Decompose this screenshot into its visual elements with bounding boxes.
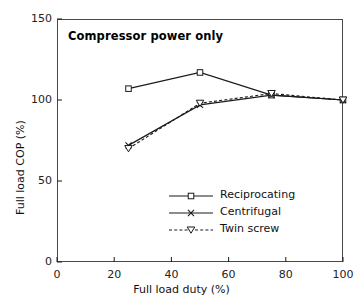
legend-label: Twin screw <box>220 222 279 235</box>
x-tick-label: 0 <box>37 268 77 281</box>
x-tick-label: 80 <box>266 268 306 281</box>
x-tick-label: 40 <box>151 268 191 281</box>
series-line <box>129 72 344 100</box>
data-point-marker <box>126 86 132 92</box>
legend-item: Centrifugal <box>168 203 318 220</box>
legend-label: Reciprocating <box>220 188 295 201</box>
legend-item: Twin screw <box>168 220 318 237</box>
x-tick-label: 60 <box>209 268 249 281</box>
series-line <box>129 95 344 145</box>
chart-legend: ReciprocatingCentrifugalTwin screw <box>168 186 318 237</box>
chart-figure: Compressor power only 050100150020406080… <box>0 0 363 306</box>
legend-marker-icon <box>168 222 214 236</box>
data-point-marker <box>197 70 203 76</box>
legend-marker-icon <box>168 205 214 219</box>
x-tick-label: 100 <box>323 268 363 281</box>
chart-canvas <box>0 0 363 306</box>
legend-item: Reciprocating <box>168 186 318 203</box>
x-axis-title: Full load duty (%) <box>0 283 363 296</box>
y-axis-title: Full load COP (%) <box>14 120 27 215</box>
data-point-marker <box>196 100 204 106</box>
y-tick-label: 150 <box>20 12 52 25</box>
legend-label: Centrifugal <box>220 205 281 218</box>
x-tick-label: 20 <box>94 268 134 281</box>
legend-marker-icon <box>168 188 214 202</box>
series-line <box>129 94 344 149</box>
y-tick-label: 100 <box>20 93 52 106</box>
y-tick-label: 0 <box>20 255 52 268</box>
data-series-group <box>125 70 347 152</box>
